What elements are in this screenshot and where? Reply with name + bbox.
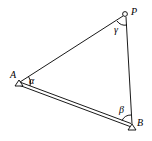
edge-p-b bbox=[126, 17, 132, 124]
triangulation-diagram: P γ A α β B bbox=[0, 0, 152, 141]
label-alpha: α bbox=[29, 75, 35, 86]
label-p: P bbox=[130, 6, 137, 17]
angle-arc-gamma bbox=[117, 21, 127, 25]
edge-a-p bbox=[20, 16, 123, 82]
label-gamma: γ bbox=[114, 24, 119, 35]
label-beta: β bbox=[118, 104, 124, 115]
label-a: A bbox=[9, 69, 17, 80]
point-p-marker-icon bbox=[123, 12, 128, 17]
point-b-marker-icon bbox=[128, 124, 136, 130]
angle-arc-beta bbox=[122, 115, 131, 121]
label-b: B bbox=[137, 117, 143, 128]
baseline-a-b bbox=[20, 83, 131, 127]
